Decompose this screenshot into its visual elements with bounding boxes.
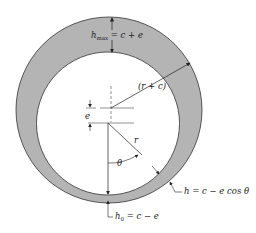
h0-leader [108, 208, 113, 217]
h-leader [170, 182, 182, 192]
theta-label: θ [117, 158, 122, 168]
outer-radius-label: (r + c) [138, 81, 166, 91]
h0-label: h0 = c − e [115, 211, 159, 222]
diagram-canvas: hmax = c + e (r + c) e r θ h = c − e cos… [0, 0, 256, 233]
ecc-label: e [85, 111, 90, 121]
bearing-diagram: hmax = c + e (r + c) e r θ h = c − e cos… [0, 0, 256, 233]
h-general-label: h = c − e cos θ [184, 186, 249, 196]
